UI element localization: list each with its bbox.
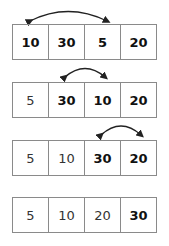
swap-arrow-step-3 xyxy=(101,126,141,135)
array-cell: 20 xyxy=(121,141,156,175)
array-cell: 20 xyxy=(85,198,121,232)
array-cell: 20 xyxy=(121,83,156,117)
array-cell: 10 xyxy=(85,83,121,117)
array-cell: 5 xyxy=(85,25,121,59)
array-cell: 5 xyxy=(13,83,49,117)
array-row-step-3: 5 10 30 20 xyxy=(12,140,157,176)
array-row-step-4: 5 10 20 30 xyxy=(12,197,157,233)
array-cell: 30 xyxy=(49,83,85,117)
array-cell: 30 xyxy=(49,25,85,59)
array-cell: 10 xyxy=(13,25,49,59)
array-cell: 10 xyxy=(49,141,85,175)
array-cell: 10 xyxy=(49,198,85,232)
array-cell: 20 xyxy=(121,25,156,59)
swap-arrow-step-1 xyxy=(30,12,107,22)
array-cell: 5 xyxy=(13,141,49,175)
array-cell: 30 xyxy=(121,198,156,232)
array-row-step-2: 5 30 10 20 xyxy=(12,82,157,118)
swap-arrow-step-2 xyxy=(65,69,105,78)
array-cell: 5 xyxy=(13,198,49,232)
array-cell: 30 xyxy=(85,141,121,175)
array-row-step-1: 10 30 5 20 xyxy=(12,24,157,60)
